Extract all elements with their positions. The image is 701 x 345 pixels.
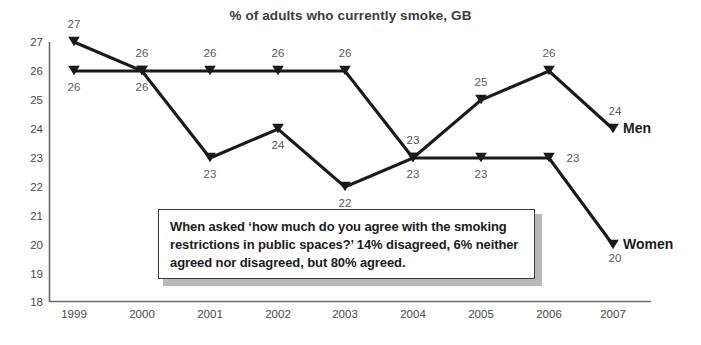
- men-point-label-2005: 25: [466, 76, 496, 88]
- women-point-label-1999: 26: [59, 81, 89, 93]
- women-point-label-2003: 22: [330, 197, 360, 209]
- y-tick-25: 25: [17, 94, 43, 106]
- series-label-women: Women: [623, 236, 673, 252]
- men-point-label-2000: 26: [127, 47, 157, 59]
- smoking-line-chart: % of adults who currently smoke, GB: [0, 0, 701, 345]
- x-tick-2004: 2004: [388, 308, 438, 320]
- callout-box: When asked ‘how much do you agree with t…: [158, 209, 535, 279]
- y-tick-23: 23: [17, 152, 43, 164]
- y-tick-27: 27: [17, 36, 43, 48]
- men-point-label-2003: 26: [330, 47, 360, 59]
- men-point-label-2006: 26: [534, 47, 564, 59]
- women-point-label-2001: 23: [195, 168, 225, 180]
- x-tick-2005: 2005: [456, 308, 506, 320]
- y-tick-22: 22: [17, 181, 43, 193]
- x-tick-2006: 2006: [524, 308, 574, 320]
- x-tick-2003: 2003: [320, 308, 370, 320]
- y-tick-20: 20: [17, 239, 43, 251]
- y-tick-18: 18: [17, 296, 43, 308]
- women-point-label-2006: 23: [558, 152, 588, 164]
- y-tick-21: 21: [17, 210, 43, 222]
- men-point-label-2004: 23: [398, 134, 428, 146]
- series-line-men: [74, 42, 613, 158]
- x-tick-1999: 1999: [49, 308, 99, 320]
- women-point-label-2007: 20: [600, 252, 630, 264]
- x-tick-2001: 2001: [185, 308, 235, 320]
- x-tick-2000: 2000: [117, 308, 167, 320]
- y-tick-24: 24: [17, 123, 43, 135]
- y-tick-26: 26: [17, 65, 43, 77]
- women-point-label-2000: 26: [127, 81, 157, 93]
- women-point-label-2002: 24: [263, 139, 293, 151]
- x-tick-2007: 2007: [588, 308, 638, 320]
- men-point-label-1999: 27: [59, 18, 89, 30]
- men-point-label-2001: 26: [195, 47, 225, 59]
- callout-text: When asked ‘how much do you agree with t…: [170, 218, 524, 272]
- women-point-label-2004: 23: [398, 168, 428, 180]
- women-point-label-2005: 23: [466, 168, 496, 180]
- men-point-label-2002: 26: [263, 47, 293, 59]
- series-label-men: Men: [623, 120, 651, 136]
- x-tick-2002: 2002: [253, 308, 303, 320]
- y-tick-19: 19: [17, 268, 43, 280]
- men-point-label-2007: 24: [600, 105, 630, 117]
